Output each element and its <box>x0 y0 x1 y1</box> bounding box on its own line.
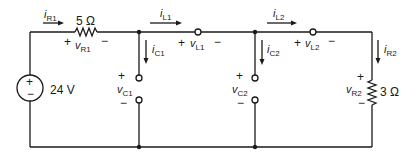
r1-value: 5 Ω <box>76 15 95 27</box>
vl2-label: vL2 <box>305 38 319 49</box>
vc2-label: vC2 <box>232 84 248 95</box>
inductor-l2-terminal <box>310 29 316 35</box>
r2-value: 3 Ω <box>380 86 399 98</box>
vl1-minus: − <box>214 36 221 48</box>
vc2-minus: − <box>237 97 244 109</box>
junction-node <box>253 30 257 34</box>
inductor-l1-terminal <box>195 29 201 35</box>
resistor-r2 <box>368 80 376 105</box>
vc1-label: vC1 <box>117 84 133 95</box>
junction-node <box>137 145 141 149</box>
ir2-label: iR2 <box>384 44 397 55</box>
ic2-label: iC2 <box>267 44 280 55</box>
ir1-label: iR1 <box>44 9 57 20</box>
vr1-plus: + <box>64 36 71 48</box>
vl2-plus: + <box>294 37 301 49</box>
vc2-plus: + <box>236 70 243 82</box>
junction-node <box>137 30 141 34</box>
vr2-minus: − <box>358 97 365 109</box>
vr2-label: vR2 <box>346 84 362 95</box>
capacitor-c2-terminal-bottom <box>252 97 258 103</box>
junction-node <box>253 145 257 149</box>
il1-label: iL1 <box>160 8 171 19</box>
il2-label: iL2 <box>273 8 284 19</box>
ic1-label: iC1 <box>152 44 165 55</box>
vl2-minus: − <box>328 35 335 47</box>
source-voltage-label: 24 V <box>50 84 75 96</box>
capacitor-c2-terminal-top <box>252 75 258 81</box>
vc1-minus: − <box>120 97 127 109</box>
resistor-r1 <box>75 28 97 36</box>
vr1-label: vR1 <box>75 40 91 51</box>
vl1-label: vL1 <box>190 38 204 49</box>
vl1-plus: + <box>178 37 185 49</box>
circuit-schematic <box>0 0 414 162</box>
vr2-plus: + <box>357 71 364 83</box>
source-minus: − <box>27 88 34 100</box>
capacitor-c1-terminal-bottom <box>136 97 142 103</box>
capacitor-c1-terminal-top <box>136 75 142 81</box>
vc1-plus: + <box>118 70 125 82</box>
vr1-minus: − <box>101 35 108 47</box>
